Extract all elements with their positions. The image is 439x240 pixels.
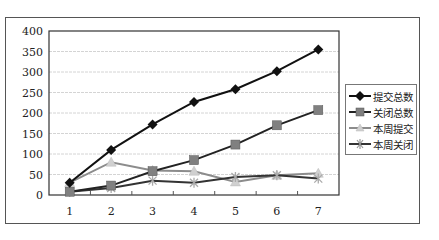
data-point xyxy=(107,181,116,190)
x-tick-label: 2 xyxy=(108,205,115,218)
data-point xyxy=(272,121,281,130)
data-point xyxy=(189,97,199,107)
data-point xyxy=(106,157,116,166)
y-tick-label: 400 xyxy=(22,25,43,38)
y-tick-label: 100 xyxy=(22,148,43,161)
legend-label: 提交总数 xyxy=(373,89,413,104)
data-point xyxy=(190,156,199,165)
x-tick-label: 7 xyxy=(315,205,322,218)
data-point xyxy=(65,187,74,196)
chart-legend: 提交总数 关闭总数 本周提交 本周关闭 xyxy=(345,84,417,155)
legend-label: 本周关闭 xyxy=(373,137,413,152)
square-marker-icon xyxy=(348,105,372,119)
legend-label: 关闭总数 xyxy=(373,105,413,120)
y-tick-label: 350 xyxy=(22,46,43,59)
triangle-marker-icon xyxy=(348,121,372,135)
data-point xyxy=(148,119,158,129)
y-tick-label: 150 xyxy=(22,128,43,141)
legend-item-total-closed: 关闭总数 xyxy=(346,104,416,120)
y-tick-label: 200 xyxy=(22,107,43,120)
data-point xyxy=(148,167,157,176)
data-point xyxy=(231,140,240,149)
x-tick-label: 4 xyxy=(191,205,198,218)
x-tick-label: 5 xyxy=(232,205,239,218)
data-point xyxy=(314,106,323,115)
x-tick-label: 3 xyxy=(149,205,156,218)
diamond-marker-icon xyxy=(348,89,372,103)
y-tick-label: 50 xyxy=(29,169,43,182)
x-tick-label: 1 xyxy=(66,205,73,218)
legend-item-total-submitted: 提交总数 xyxy=(346,88,416,104)
y-tick-label: 250 xyxy=(22,87,43,100)
legend-item-weekly-closed: 本周关闭 xyxy=(346,136,416,152)
legend-item-weekly-submitted: 本周提交 xyxy=(346,120,416,136)
x-tick-label: 6 xyxy=(273,205,280,218)
star-marker-icon xyxy=(348,137,372,151)
data-point xyxy=(313,44,323,54)
y-tick-label: 0 xyxy=(36,189,43,202)
y-tick-label: 300 xyxy=(22,66,43,79)
data-point xyxy=(272,66,282,76)
legend-label: 本周提交 xyxy=(373,121,413,136)
